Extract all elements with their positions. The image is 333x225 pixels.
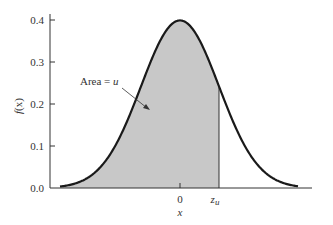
normal-distribution-chart: 0.4 0.3 0.2 0.1 0.0 f(x) 0 zu x Area = u [0,0,333,225]
y-tick-label: 0.0 [30,182,44,194]
area-annotation: Area = u [80,75,119,87]
shaded-area [60,20,219,188]
y-tick-label: 0.3 [30,56,44,68]
y-tick-label: 0.4 [30,14,44,26]
x-axis-label: x [177,206,183,218]
x-tick-label-zero: 0 [177,193,183,205]
chart-svg: 0.4 0.3 0.2 0.1 0.0 f(x) 0 zu x Area = u [0,0,333,225]
y-axis-label: f(x) [12,98,25,114]
x-tick-label-zu: zu [210,193,220,207]
y-tick-label: 0.2 [30,98,44,110]
y-ticks [50,20,55,146]
y-tick-label: 0.1 [30,140,44,152]
